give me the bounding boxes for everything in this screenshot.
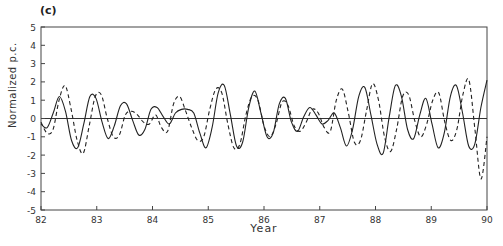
x-tick-label: 86 [258, 215, 270, 225]
series-solid [41, 80, 487, 155]
y-tick-label: -2 [27, 151, 36, 161]
y-tick-label: -3 [27, 169, 36, 179]
y-tick-label: -1 [27, 132, 36, 142]
x-tick-label: 87 [314, 215, 325, 225]
x-tick-label: 85 [203, 215, 214, 225]
y-tick-label: -4 [27, 187, 36, 197]
x-tick-label: 83 [91, 215, 102, 225]
y-tick-label: -5 [27, 206, 36, 216]
y-tick-label: 5 [30, 23, 36, 33]
x-tick-label: 82 [35, 215, 46, 225]
line-chart: 543210-1-2-3-4-5828384858687888990 [0, 0, 503, 246]
x-tick-label: 90 [481, 215, 493, 225]
y-tick-label: 0 [30, 114, 36, 124]
y-tick-label: 4 [30, 41, 36, 51]
y-tick-label: 2 [30, 77, 36, 87]
y-tick-label: 1 [30, 96, 36, 106]
x-tick-label: 84 [147, 215, 159, 225]
axes: 543210-1-2-3-4-5828384858687888990 [27, 23, 493, 226]
x-tick-label: 88 [370, 215, 382, 225]
series-lines [41, 79, 487, 179]
x-tick-label: 89 [426, 215, 438, 225]
y-tick-label: 3 [30, 59, 36, 69]
